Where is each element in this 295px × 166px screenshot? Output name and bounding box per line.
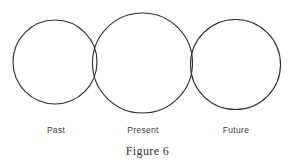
circle-label-past: Past <box>34 126 78 135</box>
circle-past <box>13 20 97 104</box>
figure-caption: Figure 6 <box>0 145 295 157</box>
figure-container: Past Present Future Figure 6 <box>0 0 295 166</box>
circle-label-present: Present <box>118 126 168 135</box>
circle-present <box>93 13 193 113</box>
circle-future <box>191 20 281 110</box>
circle-label-future: Future <box>212 126 260 135</box>
circles-diagram <box>0 0 295 166</box>
